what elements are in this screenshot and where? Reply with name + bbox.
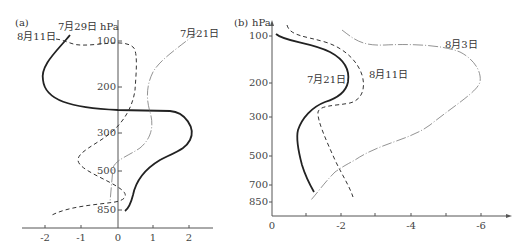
x-tick-label: -1 bbox=[76, 232, 86, 243]
y-tick-label: 200 bbox=[249, 77, 268, 88]
label-aug11: 8月11日 bbox=[17, 31, 56, 42]
x-tick-label: 1 bbox=[150, 232, 156, 243]
x-tick-label: -4 bbox=[406, 220, 416, 231]
label-jul21: 7月21日 bbox=[307, 74, 346, 85]
x-axis-arrow-icon bbox=[506, 214, 512, 218]
y-tick-label: 850 bbox=[249, 196, 268, 207]
y-tick-label: 700 bbox=[249, 179, 268, 190]
panel-b-label: (b) bbox=[234, 17, 248, 28]
panel-a-label: (a) bbox=[15, 17, 29, 28]
panel-b-y-unit: hPa bbox=[252, 17, 271, 28]
label-aug11: 8月11日 bbox=[369, 69, 408, 80]
y-tick-label: 300 bbox=[249, 111, 268, 122]
y-tick-label: 850 bbox=[97, 204, 116, 215]
panel-a-y-unit: hPa bbox=[100, 21, 119, 32]
y-tick-label: 200 bbox=[97, 81, 116, 92]
y-tick-label: 100 bbox=[249, 30, 268, 41]
x-tick-label: 2 bbox=[186, 232, 192, 243]
x-tick-label: -2 bbox=[40, 232, 50, 243]
x-tick-label: 0 bbox=[115, 232, 121, 243]
panel-b-y-ticks: 100 200 300 500 700 850 bbox=[249, 30, 272, 207]
panel-a-series-aug11 bbox=[52, 39, 136, 215]
panel-a-series-jul29 bbox=[43, 35, 192, 211]
x-tick-label: -2 bbox=[336, 220, 346, 231]
panel-b-series-jul21 bbox=[276, 34, 348, 192]
figure: (a) hPa 100 200 300 500 850 -2 -1 0 bbox=[0, 0, 523, 246]
label-jul29: 7月29日 bbox=[58, 21, 97, 32]
x-tick-label: -6 bbox=[476, 220, 486, 231]
y-tick-label: 500 bbox=[249, 150, 268, 161]
label-jul21: 7月21日 bbox=[180, 28, 219, 39]
x-tick-label: 0 bbox=[269, 220, 275, 231]
panel-a: (a) hPa 100 200 300 500 850 -2 -1 0 bbox=[15, 17, 219, 243]
label-aug3: 8月3日 bbox=[445, 39, 478, 50]
panel-b: (b) hPa 100 200 300 500 700 850 bbox=[234, 17, 512, 231]
